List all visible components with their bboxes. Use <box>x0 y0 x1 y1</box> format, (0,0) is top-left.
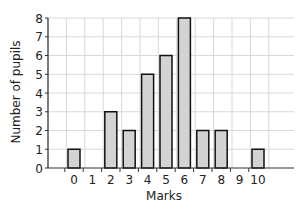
bar <box>160 56 172 169</box>
bar <box>215 131 227 169</box>
bar <box>123 131 135 169</box>
bar <box>178 18 190 168</box>
x-tick-label: 4 <box>144 173 152 187</box>
y-tick-label: 3 <box>35 105 43 119</box>
x-tick-label: 2 <box>107 173 115 187</box>
x-tick-label: 5 <box>162 173 170 187</box>
bar <box>142 74 154 168</box>
x-tick-label: 10 <box>250 173 265 187</box>
bar-chart: 012345678 012345678910 Number of pupils … <box>0 0 296 207</box>
y-tick-label: 1 <box>35 143 43 157</box>
x-tick-label: 6 <box>181 173 189 187</box>
y-tick-labels: 012345678 <box>35 12 43 176</box>
y-tick-label: 0 <box>35 162 43 176</box>
x-tick-labels: 012345678910 <box>70 173 265 187</box>
x-tick-label: 9 <box>236 173 244 187</box>
y-tick-label: 8 <box>35 12 43 26</box>
y-tick-label: 5 <box>35 68 43 82</box>
x-tick-label: 1 <box>89 173 97 187</box>
y-axis-label: Number of pupils <box>9 40 23 143</box>
x-tick-label: 7 <box>199 173 207 187</box>
x-tick-label: 3 <box>125 173 133 187</box>
x-tick-label: 0 <box>70 173 78 187</box>
bar <box>105 112 117 168</box>
y-tick-label: 2 <box>35 124 43 138</box>
bar <box>252 149 264 168</box>
chart-canvas: 012345678 012345678910 Number of pupils … <box>0 0 296 207</box>
x-tick-label: 8 <box>217 173 225 187</box>
y-tick-label: 6 <box>35 49 43 63</box>
y-tick-label: 7 <box>35 30 43 44</box>
x-axis-label: Marks <box>146 189 182 203</box>
bar <box>197 131 209 169</box>
bar <box>68 149 80 168</box>
y-tick-label: 4 <box>35 87 43 101</box>
